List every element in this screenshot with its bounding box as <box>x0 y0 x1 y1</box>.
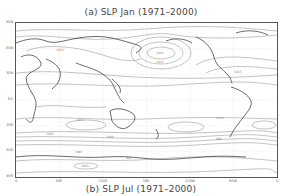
graticule <box>16 23 277 177</box>
svg-text:995: 995 <box>216 137 222 141</box>
coastlines <box>16 31 268 160</box>
x-tick-0: 0 <box>6 179 26 183</box>
svg-text:1015: 1015 <box>156 60 164 64</box>
svg-text:985: 985 <box>126 156 132 160</box>
svg-text:1015: 1015 <box>56 48 64 52</box>
panel-a-title: (a) SLP Jan (1971–2000) <box>0 7 282 17</box>
x-tick-0-end: 0 <box>267 179 282 183</box>
y-tick-30s: 30S <box>1 123 13 127</box>
svg-text:1020: 1020 <box>156 51 164 55</box>
x-tick-180: 180 <box>136 179 156 183</box>
x-tick-60e: 60E <box>49 179 69 183</box>
svg-text:990: 990 <box>76 150 82 154</box>
svg-text:1005: 1005 <box>46 132 54 136</box>
svg-text:1010: 1010 <box>216 116 224 120</box>
y-tick-90n: 90N <box>1 20 13 24</box>
slp-contour-map: 1020 1015 1015 1015 1015 1010 1005 1000 … <box>16 23 277 177</box>
svg-text:1015: 1015 <box>76 118 84 122</box>
x-tick-120w: 120W <box>180 179 200 183</box>
svg-text:1000: 1000 <box>81 164 89 168</box>
map-frame: 1020 1015 1015 1015 1015 1010 1005 1000 … <box>15 22 278 178</box>
y-tick-60n: 60N <box>1 46 13 50</box>
y-tick-90s: 90S <box>1 174 13 178</box>
y-tick-eq: EQ <box>1 97 13 101</box>
y-tick-60s: 60S <box>1 148 13 152</box>
x-tick-120e: 120E <box>93 179 113 183</box>
panel-b-title: (b) SLP Jul (1971–2000) <box>0 184 282 194</box>
y-tick-30n: 30N <box>1 71 13 75</box>
svg-text:1015: 1015 <box>234 70 242 74</box>
x-tick-60w: 60W <box>223 179 243 183</box>
svg-text:1000: 1000 <box>106 135 114 139</box>
